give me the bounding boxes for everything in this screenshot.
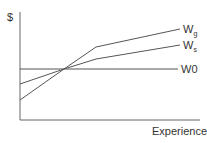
chart-canvas (0, 0, 207, 143)
wg-main: W (183, 23, 193, 35)
x-axis-label: Experience (152, 126, 207, 137)
ws-sub: s (193, 46, 197, 53)
legend-label-ws: Ws (183, 40, 197, 51)
legend-label-wg: Wg (183, 24, 197, 35)
line-ws (20, 45, 180, 84)
legend-label-w0: W0 (181, 64, 198, 75)
line-wg (20, 29, 180, 100)
wg-sub: g (193, 30, 197, 37)
ws-main: W (183, 39, 193, 51)
y-axis-label: $ (7, 12, 13, 23)
